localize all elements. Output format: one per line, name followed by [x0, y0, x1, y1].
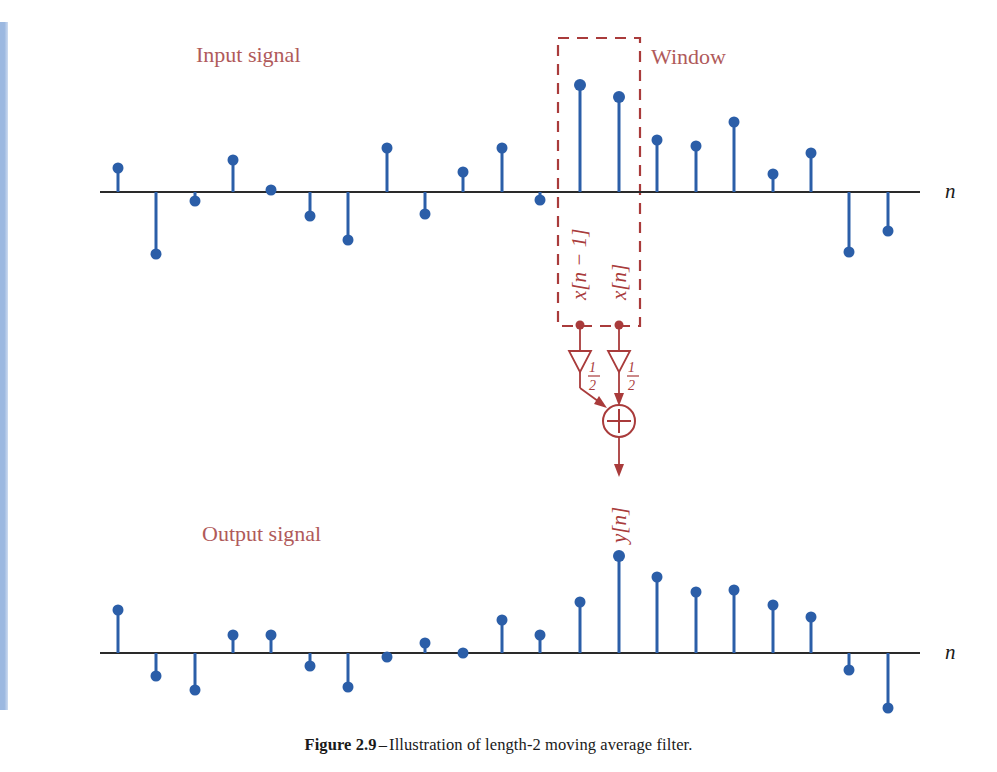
output-stem [305, 653, 316, 672]
output-stem-peak [613, 550, 625, 653]
gain-triangle-right [608, 351, 630, 372]
input-stem [535, 192, 546, 206]
input-stem [497, 143, 508, 193]
input-stem [844, 192, 855, 258]
gain-left-denominator: 2 [589, 378, 596, 393]
input-stem-window-prev [574, 79, 586, 192]
input-stem [806, 148, 817, 193]
input-stem [343, 192, 354, 246]
input-stem [190, 192, 201, 207]
input-axis-label: n [945, 179, 956, 203]
gain-right-denominator: 2 [628, 378, 635, 393]
caption-text: Illustration of length-2 moving average … [389, 735, 692, 754]
gain-triangle-left [569, 351, 591, 372]
output-stem [458, 648, 469, 659]
output-stem [190, 653, 201, 696]
input-stem [458, 167, 469, 193]
output-stem [420, 638, 431, 654]
window-label: Window [651, 44, 726, 69]
arrowhead-output [614, 464, 624, 477]
output-stem [228, 630, 239, 654]
output-stem [844, 653, 855, 676]
gain-right-numerator: 1 [628, 360, 635, 375]
output-axis-label: n [945, 640, 956, 664]
output-math-label: y[n] [607, 507, 631, 545]
output-stem-group [113, 550, 894, 714]
input-stem [883, 192, 894, 237]
arrowhead-left [594, 396, 607, 408]
input-stem [420, 192, 431, 220]
figure-container: Input signal Window n [0, 0, 997, 772]
output-stem [113, 605, 124, 654]
input-stem [266, 185, 277, 196]
output-stem [266, 630, 277, 654]
x-curr-label: x[n] [607, 264, 631, 301]
output-stem [806, 612, 817, 654]
input-stem [228, 155, 239, 193]
output-stem [497, 615, 508, 654]
input-stem [768, 169, 779, 193]
input-stem-group [113, 79, 894, 260]
input-signal-label: Input signal [196, 42, 301, 67]
input-stem [652, 135, 663, 193]
output-stem [883, 653, 894, 714]
input-stem [113, 163, 124, 193]
output-stem [382, 652, 393, 663]
figure-number: Figure 2.9 [304, 735, 376, 754]
input-stem [691, 141, 702, 193]
gain-left-numerator: 1 [589, 360, 596, 375]
output-stem [729, 585, 740, 654]
figure-caption: Figure 2.9–Illustration of length-2 movi… [0, 735, 997, 755]
x-prev-label: x[n − 1] [567, 229, 591, 301]
input-stem-window-curr [613, 91, 625, 192]
output-stem [535, 630, 546, 654]
caption-dash: – [377, 735, 389, 754]
output-stem [575, 597, 586, 654]
gain-label-left: 1 2 [588, 360, 600, 393]
input-stem [151, 192, 162, 260]
output-signal-label: Output signal [202, 521, 321, 546]
input-stem [305, 192, 316, 222]
input-stem [382, 143, 393, 193]
output-stem [768, 600, 779, 654]
output-stem [691, 587, 702, 654]
output-stem [151, 653, 162, 682]
output-stem [652, 572, 663, 654]
figure-canvas: Input signal Window n [0, 0, 997, 772]
output-stem [343, 653, 354, 693]
gain-label-right: 1 2 [627, 360, 639, 393]
input-stem [729, 117, 740, 193]
